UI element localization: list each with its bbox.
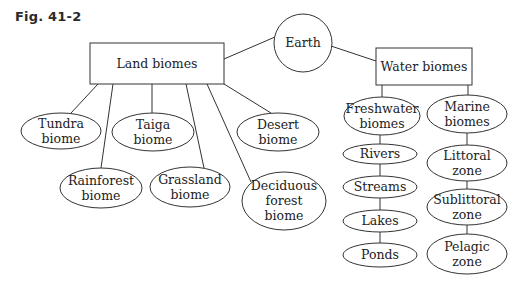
tundra-label: Tundra bbox=[38, 116, 84, 131]
littoral-label: zone bbox=[452, 163, 482, 178]
edge-earth-to-water bbox=[331, 46, 376, 61]
node-littoral: Littoralzone bbox=[427, 145, 507, 181]
node-marine: Marinebiomes bbox=[427, 95, 507, 133]
pelagic-label: Pelagic bbox=[444, 239, 490, 254]
diagram-nodes: EarthLand biomesWater biomesTundrabiomeT… bbox=[21, 14, 507, 274]
node-desert: Desertbiome bbox=[237, 113, 319, 151]
sublittoral-label: Sublittoral bbox=[433, 192, 501, 207]
node-lakes: Lakes bbox=[343, 210, 417, 232]
node-land: Land biomes bbox=[90, 43, 224, 84]
rivers-label: Rivers bbox=[360, 146, 400, 161]
deciduous-label: forest bbox=[266, 193, 303, 208]
grassland-label: biome bbox=[171, 187, 210, 202]
node-pelagic: Pelagiczone bbox=[427, 234, 507, 274]
desert-label: biome bbox=[259, 132, 298, 147]
node-streams: Streams bbox=[343, 176, 417, 198]
ponds-label: Ponds bbox=[361, 247, 399, 262]
deciduous-label: Deciduous bbox=[251, 178, 317, 193]
freshwater-label: Freshwater bbox=[345, 101, 418, 116]
freshwater-label: biomes bbox=[359, 116, 404, 131]
marine-label: Marine bbox=[444, 99, 490, 114]
marine-label: biomes bbox=[444, 114, 489, 129]
node-water: Water biomes bbox=[376, 48, 472, 85]
desert-label: Desert bbox=[257, 117, 299, 132]
node-sublittoral: Sublittoralzone bbox=[427, 189, 507, 225]
biome-hierarchy-diagram: EarthLand biomesWater biomesTundrabiomeT… bbox=[0, 0, 521, 282]
taiga-label: Taiga bbox=[136, 117, 171, 132]
node-ponds: Ponds bbox=[343, 243, 417, 267]
node-deciduous: Deciduousforestbiome bbox=[242, 172, 326, 230]
sublittoral-label: zone bbox=[452, 207, 482, 222]
streams-label: Streams bbox=[354, 179, 407, 194]
lakes-label: Lakes bbox=[361, 213, 398, 228]
water-label: Water biomes bbox=[381, 59, 468, 74]
rainforest-label: biome bbox=[82, 188, 121, 203]
tundra-label: biome bbox=[42, 131, 81, 146]
grassland-label: Grassland bbox=[158, 172, 222, 187]
node-grassland: Grasslandbiome bbox=[150, 167, 230, 207]
edge-land-to-desert bbox=[224, 84, 271, 113]
node-taiga: Taigabiome bbox=[112, 113, 194, 151]
taiga-label: biome bbox=[134, 132, 173, 147]
node-earth: Earth bbox=[274, 14, 332, 72]
rainforest-label: Rainforest bbox=[68, 173, 134, 188]
edge-land-to-tundra bbox=[71, 84, 98, 113]
node-tundra: Tundrabiome bbox=[21, 113, 101, 149]
node-rainforest: Rainforestbiome bbox=[60, 168, 142, 208]
edge-land-to-rainforest bbox=[101, 84, 113, 168]
deciduous-label: biome bbox=[265, 208, 304, 223]
littoral-label: Littoral bbox=[443, 148, 490, 163]
pelagic-label: zone bbox=[452, 254, 482, 269]
node-rivers: Rivers bbox=[343, 144, 417, 164]
node-freshwater: Freshwaterbiomes bbox=[344, 97, 420, 135]
edge-earth-to-land bbox=[224, 37, 275, 59]
earth-label: Earth bbox=[285, 35, 321, 50]
land-label: Land biomes bbox=[117, 56, 198, 71]
